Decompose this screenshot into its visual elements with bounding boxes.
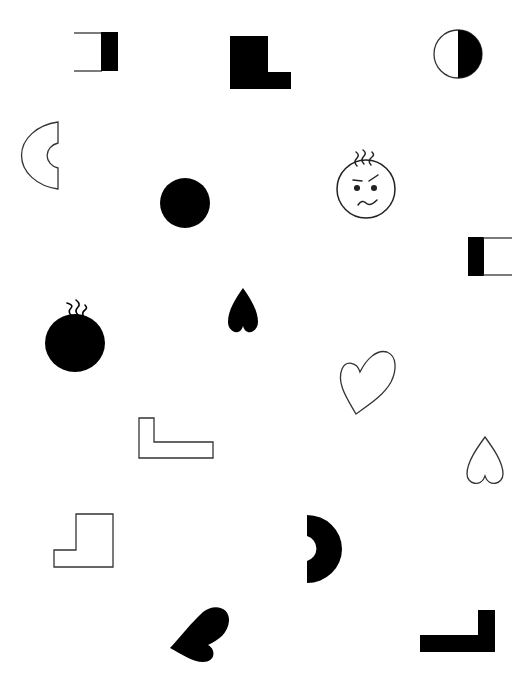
half-filled-circle-shape — [434, 30, 482, 78]
black-mirrored-l-shape — [420, 610, 495, 652]
shapes-svg — [0, 0, 530, 690]
bracket-black-right-shape — [74, 32, 118, 71]
outline-tilted-heart-shape — [340, 352, 395, 414]
black-blob-with-hair-shape — [45, 300, 105, 372]
outline-l-shape — [139, 418, 213, 458]
black-inverted-heart-shape — [228, 288, 258, 332]
black-tilted-heart-shape — [170, 607, 229, 662]
annoyed-face-shape — [337, 150, 395, 218]
bracket-black-left-shape — [468, 237, 512, 276]
black-d-arc-shape — [307, 515, 342, 583]
shape-canvas — [0, 0, 530, 690]
black-circle-shape — [160, 178, 210, 228]
black-l-shape — [230, 36, 291, 89]
outline-inverted-heart-shape — [467, 437, 503, 483]
outline-c-arc-shape — [22, 122, 58, 189]
outline-step-shape — [54, 514, 113, 567]
